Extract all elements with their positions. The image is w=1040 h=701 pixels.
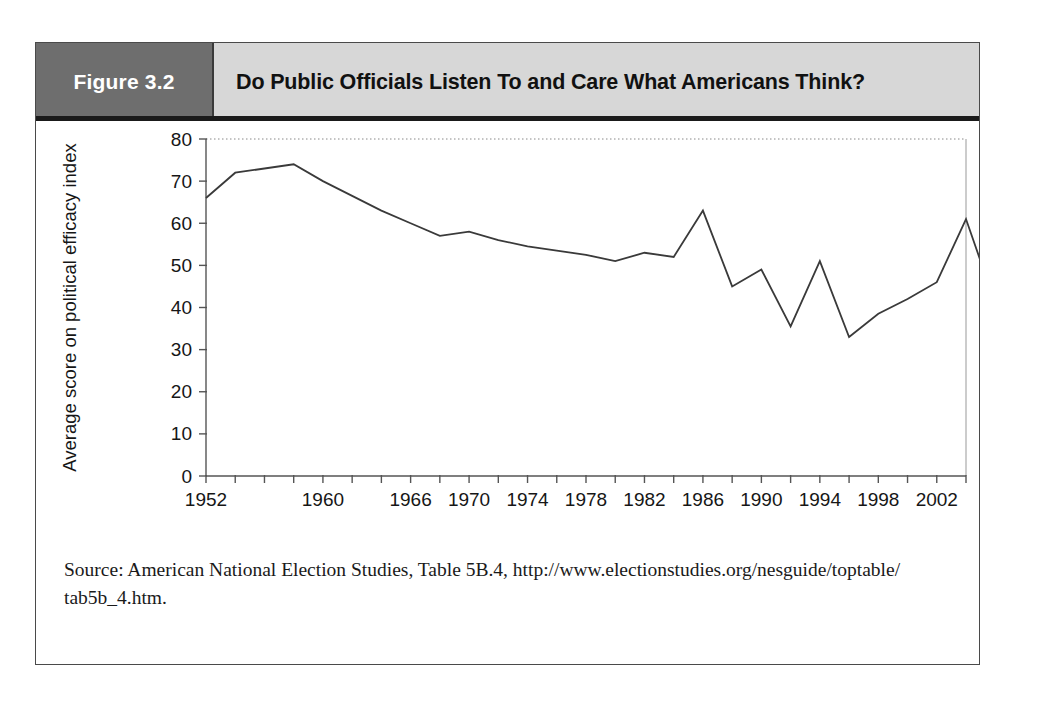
y-tick-label: 60 [171, 213, 192, 234]
y-axis-title: Average score on political efficacy inde… [59, 143, 80, 472]
source-note-line-2: tab5b_4.htm. [64, 584, 944, 612]
y-tick-label: 50 [171, 255, 192, 276]
y-tick-label: 20 [171, 381, 192, 402]
x-tick-label: 1998 [857, 489, 899, 510]
line-chart: 01020304050607080 1952196019661970197419… [36, 121, 979, 541]
y-tick-label: 10 [171, 423, 192, 444]
y-tick-label: 0 [181, 466, 192, 487]
x-tick-label: 1978 [565, 489, 607, 510]
plot-frame [206, 139, 966, 476]
x-tick-label: 1974 [506, 489, 549, 510]
data-line-series [206, 164, 979, 337]
y-axis-ticks: 01020304050607080 [171, 129, 207, 487]
x-tick-label: 1960 [302, 489, 344, 510]
efficacy-score-line [206, 164, 979, 337]
x-tick-label: 1990 [740, 489, 782, 510]
figure-container: Figure 3.2 Do Public Officials Listen To… [35, 42, 980, 665]
y-tick-label: 40 [171, 297, 192, 318]
figure-title-block: Do Public Officials Listen To and Care W… [212, 43, 979, 121]
y-tick-label: 80 [171, 129, 192, 150]
y-tick-label: 30 [171, 339, 192, 360]
source-note-line-1: Source: American National Election Studi… [64, 556, 944, 584]
x-axis-ticks: 1952196019661970197419781982198619901994… [185, 475, 966, 510]
x-tick-label: 1982 [623, 489, 665, 510]
x-tick-label: 1986 [682, 489, 724, 510]
figure-header: Figure 3.2 Do Public Officials Listen To… [36, 43, 979, 121]
figure-title: Do Public Officials Listen To and Care W… [236, 70, 865, 95]
x-tick-label: 1970 [448, 489, 490, 510]
figure-number-label: Figure 3.2 [73, 70, 174, 94]
figure-number-block: Figure 3.2 [36, 43, 212, 121]
y-axis-title-text: Average score on political efficacy inde… [59, 143, 80, 472]
x-tick-label: 1966 [389, 489, 431, 510]
chart-area: 01020304050607080 1952196019661970197419… [36, 121, 979, 541]
y-tick-label: 70 [171, 171, 192, 192]
x-tick-label: 1994 [799, 489, 842, 510]
x-tick-label: 1952 [185, 489, 227, 510]
x-tick-label: 2002 [916, 489, 958, 510]
source-note: Source: American National Election Studi… [64, 556, 944, 613]
